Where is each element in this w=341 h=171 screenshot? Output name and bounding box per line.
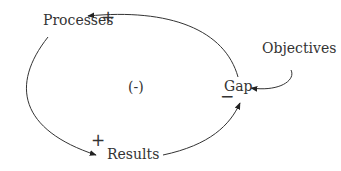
polarity-results-plus: +	[91, 132, 105, 149]
polarity-processes-plus: +	[101, 9, 115, 26]
link-processes-to-results	[26, 37, 96, 155]
link-objectives-to-gap	[251, 70, 292, 89]
polarity-gap-minus: −	[220, 88, 234, 105]
node-results: Results	[107, 147, 159, 161]
link-results-to-gap	[163, 103, 240, 155]
node-objectives: Objectives	[262, 41, 336, 55]
loop-polarity: (-)	[128, 80, 144, 94]
